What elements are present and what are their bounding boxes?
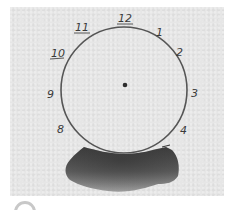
numeral-2: 2: [176, 46, 183, 59]
clock-drawing: 12 1 2 3 4 8 9 10 11: [0, 0, 238, 210]
numeral-4: 4: [180, 124, 187, 137]
clock-face-outline: [61, 27, 187, 153]
numeral-9: 9: [47, 88, 54, 101]
numeral-10: 10: [51, 47, 65, 60]
numeral-11: 11: [75, 21, 89, 34]
numeral-3: 3: [191, 87, 198, 100]
numeral-8: 8: [57, 123, 64, 136]
clock-center-dot: [123, 83, 128, 88]
numeral-12: 12: [118, 12, 132, 25]
numeral-1: 1: [156, 26, 163, 39]
scene: 12 1 2 3 4 8 9 10 11: [0, 0, 238, 210]
